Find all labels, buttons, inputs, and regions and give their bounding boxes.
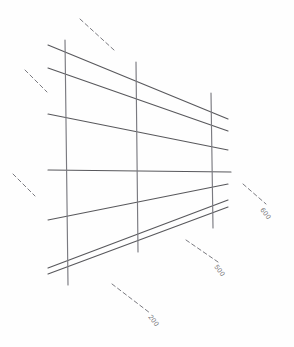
leader-200 [112,284,150,313]
leader-500 [186,240,218,262]
drawing-sheet: 600500200 [0,0,294,347]
horizontal-4 [48,170,231,172]
leader-lines [13,19,266,313]
leader-unlabeled-low [13,174,35,196]
vertical-left [65,40,68,285]
horizontal-2 [48,68,228,131]
grid-horizontal-lines [48,45,231,274]
leader-600 [243,184,266,204]
grid-vertical-lines [65,40,213,285]
leader-unlabeled-mid [25,70,47,92]
horizontal-1 [48,45,228,119]
sketch-canvas [0,0,294,347]
leader-unlabeled-top [80,19,114,50]
horizontal-3 [48,114,228,150]
vertical-middle [136,62,138,252]
